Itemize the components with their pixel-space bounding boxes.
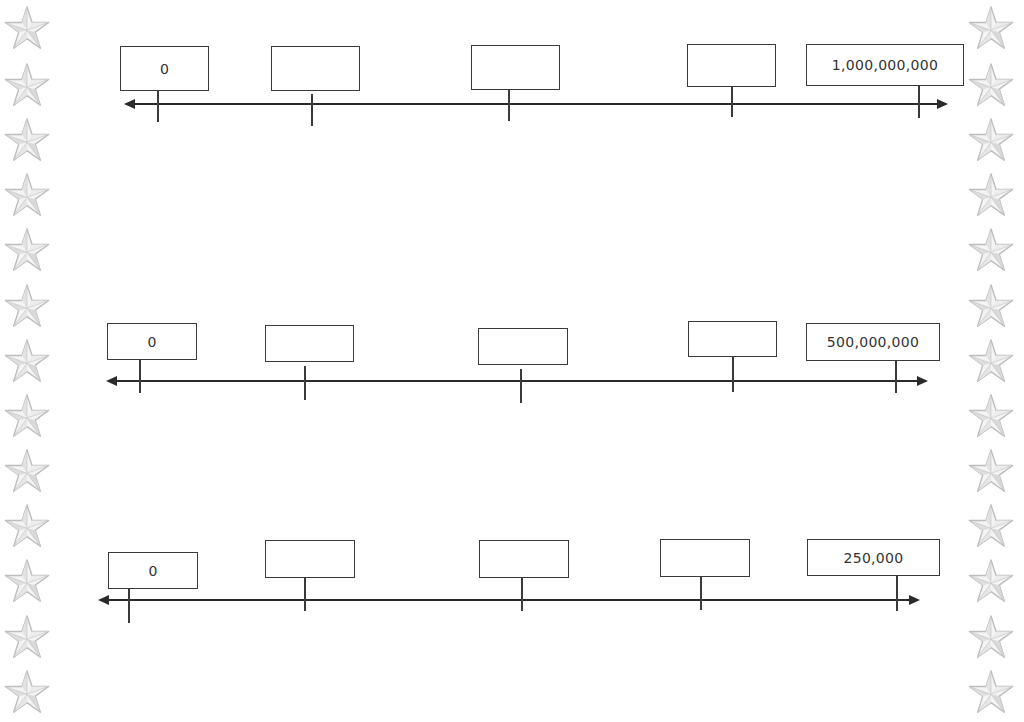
value-label-box: 0: [120, 46, 209, 91]
blank-answer-box[interactable]: [265, 325, 354, 362]
tick-mark: [508, 90, 510, 121]
number-line-3: [98, 595, 920, 605]
number-lines-area: 01,000,000,0000500,000,0000250,000: [0, 0, 1024, 722]
blank-answer-box[interactable]: [687, 44, 776, 87]
value-label-box: 500,000,000: [806, 323, 940, 361]
value-label-box: 250,000: [807, 539, 940, 576]
tick-mark: [139, 360, 141, 393]
tick-mark: [700, 577, 702, 610]
tick-mark: [896, 576, 898, 611]
value-label-box: 0: [108, 552, 198, 589]
tick-mark: [918, 86, 920, 118]
blank-answer-box[interactable]: [471, 45, 560, 90]
number-line-2: [106, 376, 928, 386]
blank-answer-box[interactable]: [478, 328, 568, 365]
arrow-left-icon: [124, 99, 135, 109]
value-label-box: 0: [107, 323, 197, 360]
blank-answer-box[interactable]: [479, 540, 569, 578]
tick-mark: [521, 578, 523, 611]
tick-mark: [895, 361, 897, 393]
tick-mark: [304, 578, 306, 611]
number-line-1: [124, 99, 948, 109]
blank-answer-box[interactable]: [660, 539, 750, 577]
arrow-left-icon: [106, 376, 117, 386]
tick-mark: [128, 589, 130, 623]
tick-mark: [732, 357, 734, 392]
blank-answer-box[interactable]: [265, 540, 355, 578]
tick-mark: [304, 366, 306, 400]
blank-answer-box[interactable]: [688, 321, 777, 357]
arrow-right-icon: [917, 376, 928, 386]
value-label-box: 1,000,000,000: [806, 44, 964, 86]
blank-answer-box[interactable]: [271, 46, 360, 91]
tick-mark: [731, 87, 733, 117]
arrow-right-icon: [937, 99, 948, 109]
tick-mark: [520, 369, 522, 403]
arrow-left-icon: [98, 595, 109, 605]
tick-mark: [157, 91, 159, 122]
tick-mark: [311, 94, 313, 126]
arrow-right-icon: [909, 595, 920, 605]
